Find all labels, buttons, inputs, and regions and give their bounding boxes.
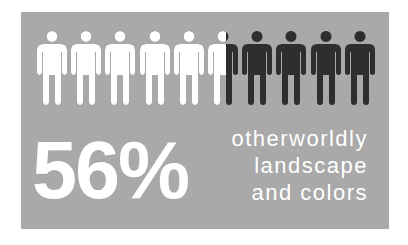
person-icon <box>174 31 204 105</box>
person-icon <box>242 31 272 105</box>
infographic-panel: 56% otherworldly landscape and colors <box>21 12 389 229</box>
person-icon <box>345 31 375 105</box>
person-pictogram-row <box>37 31 377 105</box>
person-icon <box>140 31 170 105</box>
person-icon <box>311 31 341 105</box>
person-icon <box>37 31 67 105</box>
caption-line-1: otherworldly <box>231 125 368 152</box>
person-icon <box>208 31 238 105</box>
person-icon <box>276 31 306 105</box>
person-icon <box>71 31 101 105</box>
stat-percentage: 56% <box>32 130 188 211</box>
caption-line-2: landscape <box>231 152 368 179</box>
person-icon <box>105 31 135 105</box>
stat-caption: otherworldly landscape and colors <box>231 125 368 206</box>
caption-line-3: and colors <box>231 179 368 206</box>
